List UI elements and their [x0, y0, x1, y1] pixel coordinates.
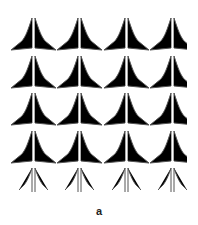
- arrowhead-glyph: [57, 18, 102, 50]
- arrowhead-glyph: [150, 131, 195, 163]
- arrowhead-glyph: [150, 56, 195, 88]
- panel-label: a: [0, 205, 198, 217]
- arrowhead-glyph: [158, 168, 187, 192]
- arrowhead-glyph: [19, 168, 48, 192]
- arrowhead-glyph: [11, 93, 56, 125]
- arrowhead-glyph: [104, 56, 149, 88]
- arrowhead-glyph: [112, 168, 141, 192]
- arrowhead-glyph: [11, 18, 56, 50]
- arrowhead-glyph: [104, 93, 149, 125]
- arrowhead-glyph: [57, 93, 102, 125]
- arrowhead-glyph: [11, 56, 56, 88]
- arrowhead-glyph: [104, 131, 149, 163]
- arrowhead-glyph: [65, 168, 94, 192]
- glyph-grid: [0, 0, 198, 225]
- arrowhead-glyph: [104, 18, 149, 50]
- figure-panel: a: [0, 0, 198, 225]
- arrowhead-glyph: [150, 18, 195, 50]
- arrowhead-glyph: [57, 56, 102, 88]
- arrowhead-glyph: [11, 131, 56, 163]
- arrowhead-glyph: [57, 131, 102, 163]
- arrowhead-glyph: [150, 93, 195, 125]
